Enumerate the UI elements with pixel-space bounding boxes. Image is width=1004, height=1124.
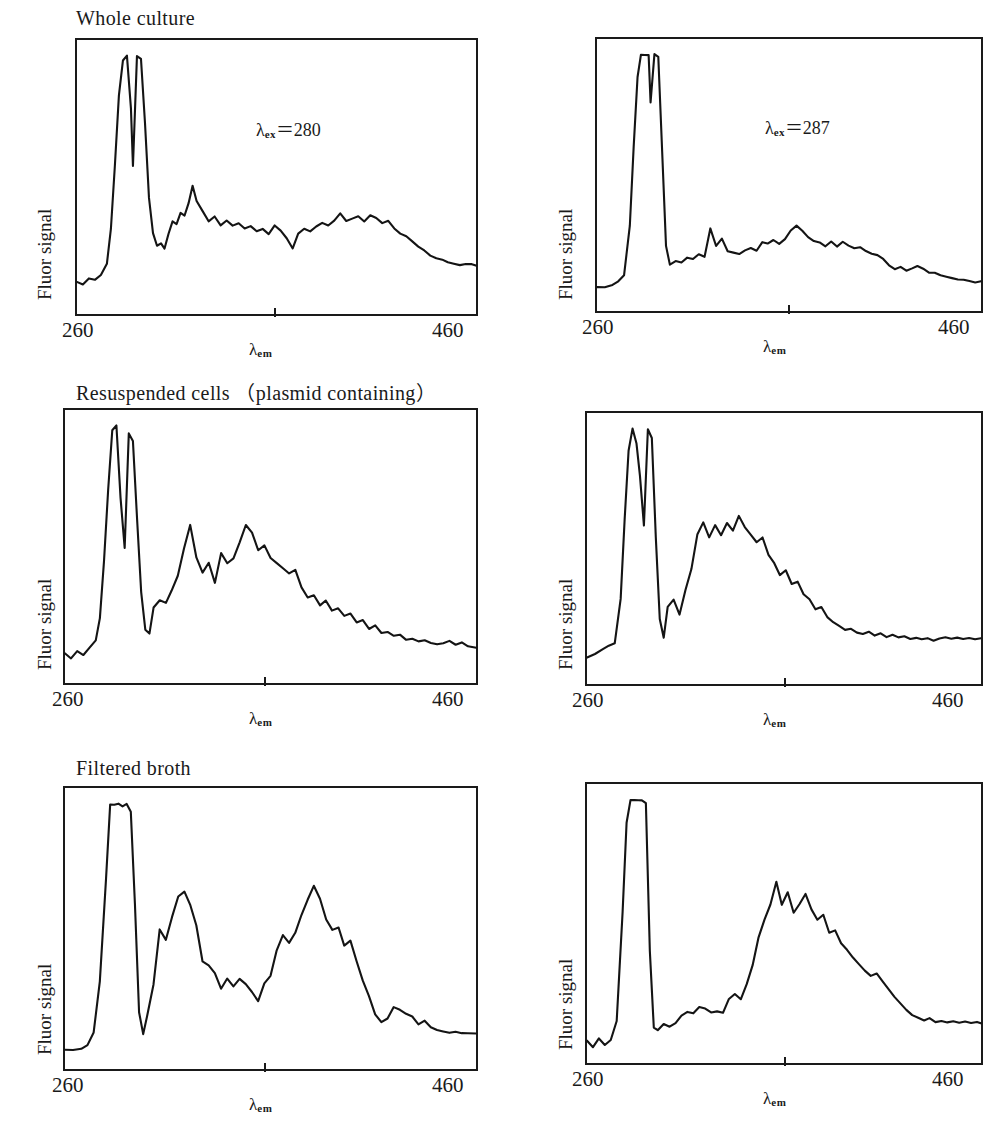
x-tick-min: 260 bbox=[572, 688, 604, 713]
plot-frame bbox=[63, 786, 478, 1071]
x-axis-label: λem bbox=[249, 340, 272, 360]
x-axis-mid-tick bbox=[264, 1063, 266, 1072]
panel-title-filtered-broth: Filtered broth bbox=[76, 757, 191, 780]
x-axis-label: λem bbox=[763, 337, 786, 357]
plot-frame bbox=[595, 37, 983, 313]
x-tick-max: 460 bbox=[432, 687, 464, 712]
x-tick-max: 460 bbox=[432, 318, 464, 343]
x-tick-max: 460 bbox=[932, 688, 964, 713]
y-axis-label: Fluor signal bbox=[34, 964, 56, 1055]
plot-frame bbox=[585, 782, 983, 1065]
x-tick-min: 260 bbox=[52, 687, 84, 712]
x-axis-mid-tick bbox=[264, 677, 266, 686]
x-axis-label: λem bbox=[763, 710, 786, 730]
x-tick-min: 260 bbox=[52, 1073, 84, 1098]
y-axis-label: Fluor signal bbox=[34, 209, 56, 300]
x-tick-min: 260 bbox=[582, 315, 614, 340]
x-tick-max: 460 bbox=[432, 1073, 464, 1098]
x-tick-max: 460 bbox=[932, 1067, 964, 1092]
x-tick-min: 260 bbox=[62, 318, 94, 343]
x-axis-label: λem bbox=[763, 1089, 786, 1109]
panel-title-resuspended-cells: Resuspended cells （plasmid containing） bbox=[76, 377, 436, 406]
x-axis-mid-tick bbox=[788, 305, 790, 314]
x-axis-mid-tick bbox=[784, 1057, 786, 1066]
excitation-annotation-280: λex＝280 bbox=[256, 115, 321, 141]
y-axis-label: Fluor signal bbox=[555, 209, 577, 300]
x-axis-label: λem bbox=[249, 1095, 272, 1115]
x-axis-label: λem bbox=[249, 709, 272, 729]
x-tick-min: 260 bbox=[572, 1067, 604, 1092]
y-axis-label: Fluor signal bbox=[555, 959, 577, 1050]
plot-frame bbox=[63, 408, 478, 685]
x-axis-mid-tick bbox=[274, 308, 276, 317]
plot-frame bbox=[75, 38, 478, 316]
y-axis-label: Fluor signal bbox=[34, 579, 56, 670]
x-axis-mid-tick bbox=[784, 678, 786, 687]
y-axis-label: Fluor signal bbox=[555, 579, 577, 670]
plot-frame bbox=[585, 411, 983, 686]
excitation-annotation-287: λex＝287 bbox=[765, 113, 830, 139]
panel-title-whole-culture: Whole culture bbox=[76, 7, 195, 30]
x-tick-max: 460 bbox=[938, 315, 970, 340]
